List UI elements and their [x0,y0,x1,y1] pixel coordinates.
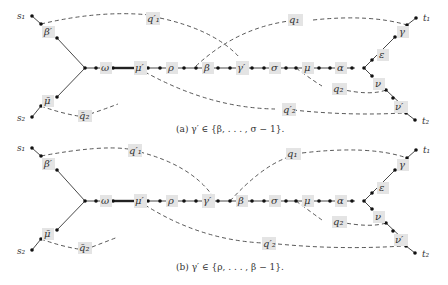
svg-text:γ′: γ′ [203,195,212,206]
label-nu-prime: ν′ [394,234,408,246]
label-nu: ν [373,78,385,90]
svg-text:ν′: ν′ [395,234,404,245]
svg-text:q′₂: q′₂ [263,238,276,249]
svg-text:q′₁: q′₁ [147,13,160,24]
panel-b: β′ μ̄ ω μ′ ρ γ′ β σ μ α ε γ ν ν′ q′₁ q₁ … [17,143,430,272]
label-q1-prime: q′₁ [128,144,142,157]
caption-b: (b) γ′ ∈ {ρ, . . . , β − 1}. [176,262,284,272]
label-gamma: γ [397,159,409,171]
svg-text:γ′: γ′ [237,62,246,73]
panel-a: β′ μ̄ ω μ′ ρ β γ′ σ μ α ε γ ν ν′ q′₁ q₁ … [17,11,430,134]
nodes-b [30,146,418,255]
svg-text:q̄₂: q̄₂ [79,110,89,121]
svg-text:ρ: ρ [167,62,174,73]
svg-text:ρ: ρ [167,195,174,206]
label-mu-prime: μ′ [134,61,147,75]
label-sigma: σ [269,62,281,74]
label-q2: q₂ [332,83,347,95]
svg-text:β: β [237,195,244,206]
terminal-t2: t₂ [422,249,430,259]
svg-text:ε: ε [379,182,384,193]
svg-text:μ̄: μ̄ [44,228,51,239]
label-mu: μ [302,62,314,74]
label-omega: ω [100,195,112,207]
label-q1: q₁ [286,148,301,160]
label-q2-prime: q′₂ [282,103,296,116]
label-gamma-prime: γ′ [202,194,215,208]
terminal-t1: t₁ [423,145,430,155]
svg-text:q′₁: q′₁ [129,145,142,156]
terminal-s1: s₁ [17,11,25,21]
svg-text:q₂: q₂ [333,83,343,94]
label-nu: ν [373,211,385,223]
label-q2-prime: q′₂ [262,237,276,250]
label-mu: μ [302,195,314,207]
svg-text:γ: γ [399,26,405,37]
svg-text:ω: ω [101,62,109,73]
label-beta-prime: β′ [42,26,55,38]
svg-text:α: α [337,195,344,206]
label-q2-bar: q̄₂ [78,110,92,122]
svg-text:β′: β′ [43,158,53,169]
label-beta-prime: β′ [42,158,55,170]
label-mu-prime: μ′ [134,194,147,208]
terminal-t1: t₁ [423,13,430,23]
label-gamma: γ [397,26,409,38]
label-q1-prime: q′₁ [146,12,160,25]
svg-text:σ: σ [271,62,279,73]
path-diagram-figure: β′ μ̄ ω μ′ ρ β γ′ σ μ α ε γ ν ν′ q′₁ q₁ … [0,0,448,285]
svg-text:α: α [337,62,344,73]
svg-text:μ′: μ′ [135,62,144,73]
label-q2: q₂ [332,216,347,228]
terminal-t2: t₂ [422,116,430,126]
label-mu-bar: μ̄ [42,228,54,240]
label-rho: ρ [166,195,178,207]
svg-text:q₁: q₁ [287,148,297,159]
label-beta: β [202,62,214,74]
svg-text:ν′: ν′ [395,101,404,112]
terminal-s2: s₂ [17,246,26,256]
caption-a: (a) γ′ ∈ {β, . . . , σ − 1}. [176,124,284,134]
svg-text:γ: γ [399,159,405,170]
svg-text:ν: ν [375,78,381,89]
svg-text:μ̄: μ̄ [44,95,51,106]
label-alpha: α [335,62,347,74]
label-alpha: α [335,195,347,207]
svg-text:β′: β′ [43,26,53,37]
svg-text:ε: ε [379,49,384,60]
svg-text:q₁: q₁ [289,14,299,25]
svg-text:ω: ω [101,195,109,206]
svg-text:μ: μ [304,195,311,206]
label-omega: ω [100,62,112,74]
svg-text:q₂: q₂ [333,216,343,227]
svg-text:ν: ν [375,211,381,222]
svg-text:μ: μ [304,62,311,73]
label-q2-bar: q̄₂ [78,242,92,254]
terminal-s2: s₂ [17,113,26,123]
svg-text:σ: σ [271,195,279,206]
svg-text:μ′: μ′ [135,195,144,206]
svg-text:β: β [203,62,210,73]
label-mu-bar: μ̄ [42,95,54,107]
label-rho: ρ [166,62,178,74]
label-epsilon: ε [377,49,389,61]
label-q1: q₁ [288,14,303,26]
label-epsilon: ε [377,182,389,194]
terminal-s1: s₁ [17,143,25,153]
svg-text:q̄₂: q̄₂ [79,242,89,253]
label-nu-prime: ν′ [394,101,408,113]
svg-text:q′₂: q′₂ [283,104,296,115]
label-sigma: σ [269,195,281,207]
label-beta: β [236,195,248,207]
label-gamma-prime: γ′ [236,61,249,75]
